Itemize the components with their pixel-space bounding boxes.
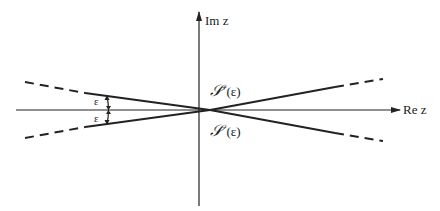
epsilon-lower-label: ε (94, 113, 99, 124)
sector-minus-argument: (ε) (227, 124, 241, 139)
sector-minus-label: 𝒮−(ε) (210, 123, 241, 139)
lower-right-dashed-ray (335, 133, 383, 141)
complex-plane-diagram: Im z Re z 𝒮+(ε) 𝒮−(ε) ε ε (0, 0, 440, 211)
sector-plus-argument: (ε) (227, 84, 241, 99)
upper-right-dashed-ray (335, 79, 383, 87)
sector-plus-label: 𝒮+(ε) (210, 83, 241, 99)
imaginary-axis-label: Im z (205, 14, 228, 27)
upper-left-solid-ray (85, 93, 210, 110)
upper-left-dashed-ray (25, 82, 85, 93)
real-axis-label: Re z (403, 103, 426, 116)
lower-left-solid-ray (85, 110, 210, 127)
sector-minus-symbol: 𝒮 (210, 121, 222, 140)
epsilon-upper-label: ε (94, 96, 99, 107)
sector-plus-symbol: 𝒮 (210, 81, 222, 100)
diagram-canvas (0, 0, 440, 211)
lower-left-dashed-ray (25, 127, 85, 138)
